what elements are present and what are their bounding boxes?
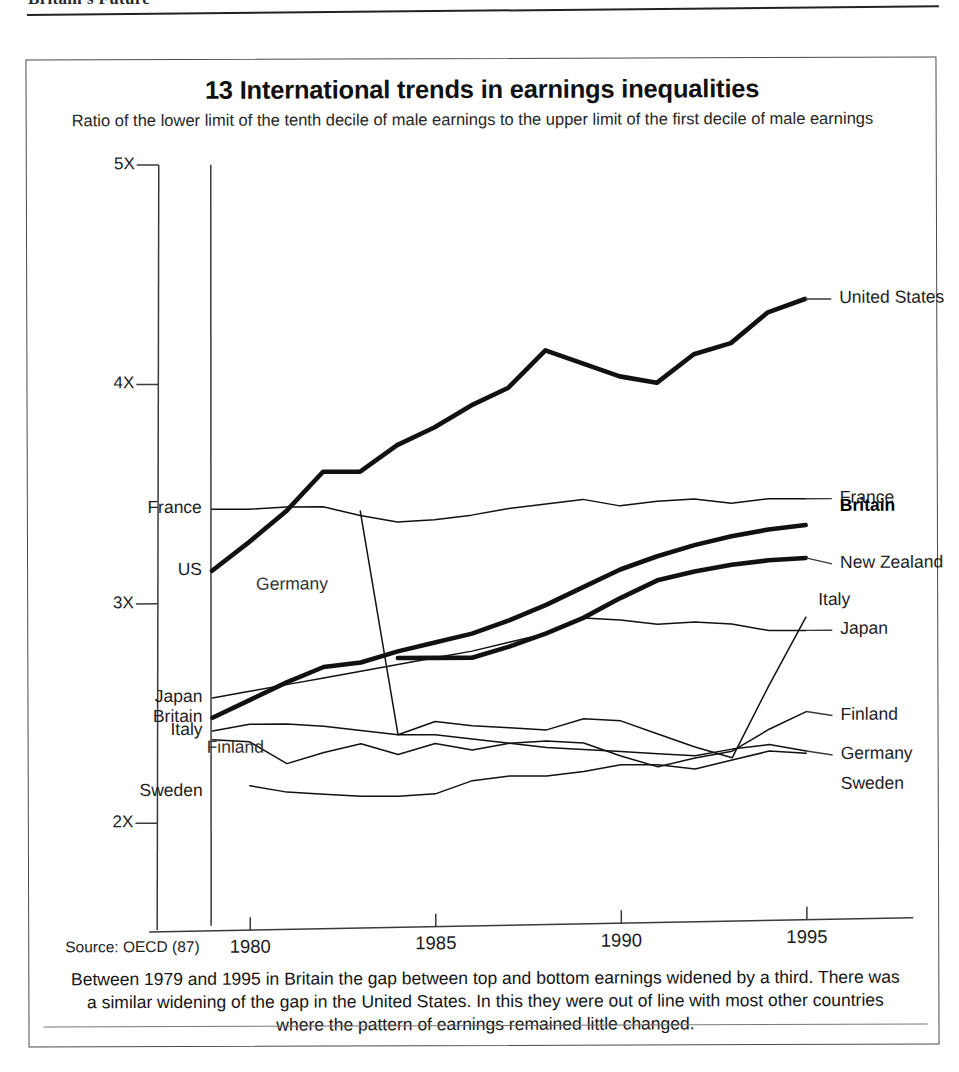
series-label-left-sweden: Sweden xyxy=(33,780,203,802)
chart-subtitle: Ratio of the lower limit of the tenth de… xyxy=(72,108,902,132)
chart-plot-area xyxy=(26,58,940,1049)
series-line-france xyxy=(212,499,806,523)
series-line-germany xyxy=(360,510,806,757)
series-label-left-japan: Japan xyxy=(32,686,202,708)
y-tick-label-2X: 2X xyxy=(77,812,133,832)
series-label-right-italy: Italy xyxy=(818,589,850,610)
series-line-italy xyxy=(212,617,806,759)
series-label-right-new-zealand: New Zealand xyxy=(840,552,943,573)
series-line-britain xyxy=(212,525,806,718)
series-label-inner-germany: Germany xyxy=(256,574,328,595)
series-label-left-italy: Italy xyxy=(32,719,202,741)
page-header-text: Britain's Future xyxy=(28,0,150,9)
series-label-right-united-states: United States xyxy=(839,287,944,308)
chart-series-labels: FranceUSJapanBritainItalySwedenUnited St… xyxy=(26,58,935,61)
series-label-right-germany: Germany xyxy=(841,743,913,764)
chart-svg xyxy=(26,58,940,1049)
x-tick-label-1985: 1985 xyxy=(396,933,476,955)
chart-leader-lines xyxy=(805,299,833,755)
chart-tick-labels: 2X3X4X5X1980198519901995 xyxy=(26,58,935,61)
series-line-finland xyxy=(213,712,807,769)
series-label-right-finland: Finland xyxy=(840,703,897,724)
page-running-header: Britain's Future xyxy=(0,0,959,26)
chart-series-group xyxy=(211,299,806,797)
y-tick-label-5X: 5X xyxy=(79,154,135,174)
series-label-inner-finland: Finland xyxy=(207,736,264,757)
page-title: 13 International trends in earnings ineq… xyxy=(27,74,938,106)
series-line-new-zealand xyxy=(398,558,807,658)
y-tick-label-3X: 3X xyxy=(78,593,134,613)
x-tick-label-1980: 1980 xyxy=(210,936,290,958)
header-rule xyxy=(27,5,939,16)
series-line-united-states xyxy=(211,299,806,571)
x-tick-label-1995: 1995 xyxy=(767,926,847,948)
series-line-japan xyxy=(212,617,806,698)
chart-axes xyxy=(133,163,913,932)
series-label-left-france: France xyxy=(32,497,202,519)
series-label-right-japan: Japan xyxy=(840,618,888,639)
series-label-right-sweden: Sweden xyxy=(841,773,904,794)
series-label-left-us: US xyxy=(32,559,202,581)
source-note: Source: OECD (87) xyxy=(65,938,199,956)
series-label-right-britain: Britain xyxy=(840,495,896,516)
figure-frame: 13 International trends in earnings ineq… xyxy=(25,57,939,1048)
x-tick-label-1990: 1990 xyxy=(581,929,661,951)
y-tick-label-4X: 4X xyxy=(78,373,134,393)
series-line-sweden xyxy=(250,751,807,797)
